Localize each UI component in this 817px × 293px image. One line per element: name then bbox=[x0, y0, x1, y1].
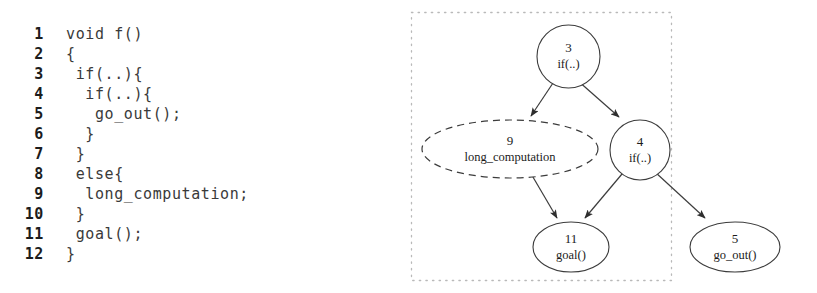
edge-4-to-5 bbox=[655, 172, 705, 218]
code-line: 5 go_out(); bbox=[0, 104, 182, 124]
code-line-text: else{ bbox=[44, 164, 124, 184]
code-line: 1void f() bbox=[0, 24, 143, 44]
code-line: 11 goal(); bbox=[0, 224, 143, 244]
code-line-text: goal(); bbox=[44, 224, 143, 244]
graph-node-9[interactable]: 9 long_computation bbox=[422, 120, 598, 178]
code-line-text: } bbox=[44, 124, 95, 144]
code-line-text: void f() bbox=[44, 24, 143, 44]
node-4-number: 4 bbox=[637, 134, 644, 149]
edge-3-to-4 bbox=[577, 80, 619, 117]
code-line-number: 11 bbox=[0, 224, 44, 244]
node-9-signature: long_computation bbox=[465, 150, 557, 164]
graph-node-3[interactable]: 3 if(..) bbox=[537, 25, 600, 88]
code-line-number: 5 bbox=[0, 104, 44, 124]
code-line-number: 3 bbox=[0, 64, 44, 84]
code-line: 10 } bbox=[0, 204, 85, 224]
node-5-shape bbox=[690, 222, 780, 272]
graph-node-5[interactable]: 5 go_out() bbox=[690, 222, 780, 272]
code-line-number: 1 bbox=[0, 24, 44, 44]
code-line: 7 } bbox=[0, 144, 85, 164]
node-3-signature: if(..) bbox=[557, 57, 579, 71]
code-line: 8 else{ bbox=[0, 164, 124, 184]
edge-9-to-11 bbox=[530, 172, 557, 218]
code-line-number: 4 bbox=[0, 84, 44, 104]
code-line-number: 10 bbox=[0, 204, 44, 224]
graph-node-4[interactable]: 4 if(..) bbox=[610, 120, 670, 180]
code-line-text: } bbox=[44, 244, 76, 264]
code-line-text: long_computation; bbox=[44, 184, 249, 204]
node-9-shape bbox=[422, 120, 598, 178]
code-line-number: 6 bbox=[0, 124, 44, 144]
control-flow-graph-panel: 3 if(..) 9 long_computation 4 if(..) 11 … bbox=[400, 0, 817, 293]
code-line-text: } bbox=[44, 144, 85, 164]
code-line: 6 } bbox=[0, 124, 95, 144]
code-line-number: 8 bbox=[0, 164, 44, 184]
node-11-shape bbox=[533, 222, 609, 272]
code-line-number: 12 bbox=[0, 244, 44, 264]
node-9-number: 9 bbox=[507, 133, 514, 148]
node-5-number: 5 bbox=[732, 231, 739, 246]
code-line: 4 if(..){ bbox=[0, 84, 153, 104]
node-11-number: 11 bbox=[565, 231, 578, 246]
code-line-text: go_out(); bbox=[44, 104, 182, 124]
graph-node-11[interactable]: 11 goal() bbox=[533, 222, 609, 272]
node-3-number: 3 bbox=[565, 40, 572, 55]
code-line-number: 9 bbox=[0, 184, 44, 204]
node-5-signature: go_out() bbox=[713, 248, 756, 262]
edge-3-to-9 bbox=[531, 80, 555, 116]
code-line-number: 2 bbox=[0, 44, 44, 64]
node-11-signature: goal() bbox=[556, 248, 586, 262]
code-line-text: if(..){ bbox=[44, 64, 143, 84]
code-line-number: 7 bbox=[0, 144, 44, 164]
code-line: 9 long_computation; bbox=[0, 184, 249, 204]
code-line-text: { bbox=[44, 44, 76, 64]
code-line: 2{ bbox=[0, 44, 76, 64]
source-code-panel: 1void f() 2{ 3 if(..){ 4 if(..){ 5 go_ou… bbox=[0, 0, 400, 293]
code-line: 3 if(..){ bbox=[0, 64, 143, 84]
code-line: 12} bbox=[0, 244, 76, 264]
edge-4-to-11 bbox=[585, 174, 622, 218]
code-line-text: if(..){ bbox=[44, 84, 153, 104]
code-line-text: } bbox=[44, 204, 85, 224]
node-4-signature: if(..) bbox=[629, 151, 651, 165]
node-4-shape bbox=[610, 120, 670, 180]
